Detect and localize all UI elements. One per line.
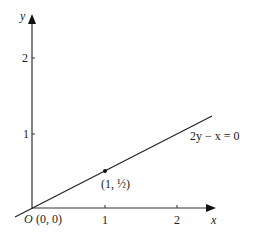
line-2y-minus-x: [15, 116, 212, 217]
point-label: (1, ½): [101, 177, 130, 191]
line-equation-label: 2y − x = 0: [190, 129, 240, 143]
y-axis-arrow-icon: [28, 14, 36, 24]
y-tick-label-1: 1: [23, 127, 29, 141]
x-axis-arrow-icon: [206, 204, 216, 212]
origin-label: O: [24, 212, 33, 226]
x-axis-label: x: [210, 213, 217, 227]
x-tick-label-1: 1: [102, 213, 108, 227]
y-axis-label: y: [19, 9, 26, 23]
graph: y x 2 1 1 2 O (0, 0) (1, ½) 2y − x = 0: [0, 0, 254, 234]
x-tick-label-2: 2: [174, 213, 180, 227]
origin-coords: (0, 0): [36, 212, 62, 226]
point-marker: [103, 169, 107, 173]
y-tick-label-2: 2: [22, 51, 28, 65]
